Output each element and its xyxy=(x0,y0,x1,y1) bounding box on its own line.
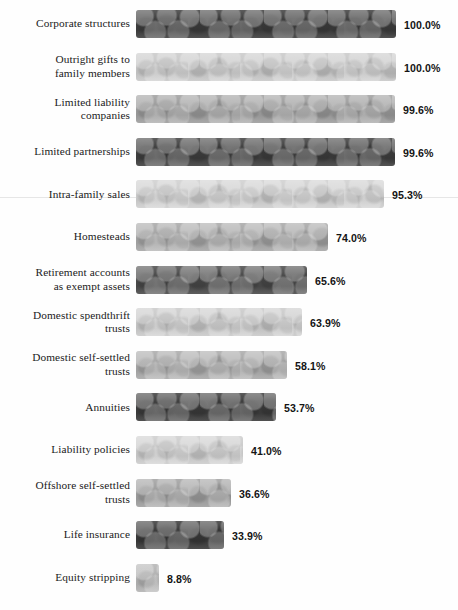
bar-row: Offshore self-settled trusts36.6% xyxy=(0,479,458,507)
bar-sheen xyxy=(136,180,384,208)
bar-container xyxy=(136,95,395,123)
bar-container xyxy=(136,351,287,379)
bar-texture xyxy=(136,436,243,464)
bar-container xyxy=(136,266,307,294)
bar-value-label: 100.0% xyxy=(404,62,441,74)
bar-texture xyxy=(136,351,287,379)
bar-category-label: Corporate structures xyxy=(2,17,130,31)
bar-category-label: Liability policies xyxy=(2,443,130,457)
bar-sheen xyxy=(136,223,328,251)
bar-category-label: Domestic spendthrift trusts xyxy=(2,309,130,336)
bar xyxy=(136,479,231,507)
bar-row: Domestic spendthrift trusts63.9% xyxy=(0,308,458,336)
bar-value-label: 53.7% xyxy=(284,402,315,414)
bar-value-label: 99.6% xyxy=(403,104,434,116)
bar xyxy=(136,351,287,379)
bar-value-label: 36.6% xyxy=(239,488,270,500)
bar xyxy=(136,436,243,464)
bar-container xyxy=(136,436,243,464)
bar-sheen xyxy=(136,138,395,166)
bar xyxy=(136,308,302,336)
bar-value-label: 33.9% xyxy=(232,530,263,542)
bar-texture xyxy=(136,308,302,336)
bar xyxy=(136,521,224,549)
bar-container xyxy=(136,393,276,421)
bar-category-label: Limited partnerships xyxy=(2,145,130,159)
bar-category-label: Retirement accounts as exempt assets xyxy=(2,266,130,293)
bar-row: Corporate structures100.0% xyxy=(0,10,458,38)
bar-container xyxy=(136,138,395,166)
bar-category-label: Outright gifts to family members xyxy=(2,53,130,80)
bar-category-label: Homesteads xyxy=(2,230,130,244)
bar xyxy=(136,53,396,81)
bar-category-label: Offshore self-settled trusts xyxy=(2,479,130,506)
bar-container xyxy=(136,521,224,549)
bar-row: Intra-family sales95.3% xyxy=(0,180,458,208)
bar-container xyxy=(136,223,328,251)
bar-sheen xyxy=(136,521,224,549)
bar xyxy=(136,564,159,592)
bar-container xyxy=(136,308,302,336)
bar xyxy=(136,95,395,123)
bar-row: Life insurance33.9% xyxy=(0,521,458,549)
bar-value-label: 65.6% xyxy=(315,275,346,287)
bar xyxy=(136,393,276,421)
bar-row: Limited liability companies99.6% xyxy=(0,95,458,123)
bar-texture xyxy=(136,180,384,208)
bar-sheen xyxy=(136,479,231,507)
bar-texture xyxy=(136,138,395,166)
bar-row: Retirement accounts as exempt assets65.6… xyxy=(0,266,458,294)
bar-row: Liability policies41.0% xyxy=(0,436,458,464)
bar-texture xyxy=(136,10,396,38)
bar-texture xyxy=(136,223,328,251)
bar-row: Equity stripping8.8% xyxy=(0,564,458,592)
bar-sheen xyxy=(136,564,159,592)
bar-sheen xyxy=(136,393,276,421)
bar-value-label: 8.8% xyxy=(167,573,192,585)
bar-chart: Corporate structures100.0%Outright gifts… xyxy=(0,0,458,610)
bar-category-label: Annuities xyxy=(2,401,130,415)
bar-value-label: 99.6% xyxy=(403,147,434,159)
bar-row: Limited partnerships99.6% xyxy=(0,138,458,166)
bar-value-label: 41.0% xyxy=(251,445,282,457)
bar xyxy=(136,266,307,294)
bar-value-label: 95.3% xyxy=(392,189,423,201)
bar-category-label: Life insurance xyxy=(2,528,130,542)
bar-row: Outright gifts to family members100.0% xyxy=(0,53,458,81)
bar-value-label: 74.0% xyxy=(336,232,367,244)
bar-container xyxy=(136,53,396,81)
bar-texture xyxy=(136,564,159,592)
bar-texture xyxy=(136,393,276,421)
bar-sheen xyxy=(136,53,396,81)
bar xyxy=(136,180,384,208)
bar-container xyxy=(136,180,384,208)
bar-value-label: 58.1% xyxy=(295,360,326,372)
bar-texture xyxy=(136,521,224,549)
bar-texture xyxy=(136,266,307,294)
bar-sheen xyxy=(136,95,395,123)
bar-row: Domestic self-settled trusts58.1% xyxy=(0,351,458,379)
bar-sheen xyxy=(136,308,302,336)
bar-sheen xyxy=(136,266,307,294)
bar xyxy=(136,138,395,166)
bar-texture xyxy=(136,479,231,507)
bar-container xyxy=(136,564,159,592)
bar-sheen xyxy=(136,351,287,379)
bar xyxy=(136,10,396,38)
bar-texture xyxy=(136,53,396,81)
bar-row: Homesteads74.0% xyxy=(0,223,458,251)
bar-sheen xyxy=(136,436,243,464)
bar-row: Annuities53.7% xyxy=(0,393,458,421)
bar xyxy=(136,223,328,251)
bar-category-label: Equity stripping xyxy=(2,571,130,585)
bar-category-label: Limited liability companies xyxy=(2,96,130,123)
bar-container xyxy=(136,10,396,38)
bar-sheen xyxy=(136,10,396,38)
bar-value-label: 63.9% xyxy=(310,317,341,329)
bar-texture xyxy=(136,95,395,123)
bar-value-label: 100.0% xyxy=(404,19,441,31)
bar-category-label: Domestic self-settled trusts xyxy=(2,351,130,378)
bar-container xyxy=(136,479,231,507)
bar-category-label: Intra-family sales xyxy=(2,188,130,202)
